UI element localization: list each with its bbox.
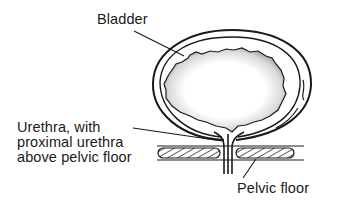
- urethra-label-line-3: above pelvic floor: [17, 150, 132, 165]
- diagram-drawing: [0, 0, 341, 204]
- pelvic-floor-left-band: [158, 148, 220, 158]
- pelvic-floor-leader-line: [243, 159, 256, 178]
- bladder-label: Bladder: [97, 12, 148, 27]
- urethra-label-line-2: proximal urethra: [17, 135, 132, 150]
- bladder-lumen-stippled: [164, 48, 286, 132]
- pelvic-floor-label: Pelvic floor: [237, 181, 309, 196]
- bladder-diagram: Bladder Urethra, with proximal urethra a…: [0, 0, 341, 204]
- pelvic-floor-right-band: [236, 148, 294, 158]
- urethra-label-line-1: Urethra, with: [17, 120, 132, 135]
- urethra-label: Urethra, with proximal urethra above pel…: [17, 120, 132, 165]
